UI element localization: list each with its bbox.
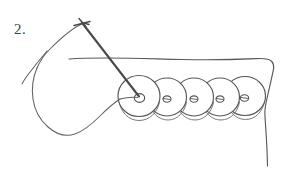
thread-loop bbox=[22, 24, 138, 135]
thread-upper-arc bbox=[37, 24, 82, 68]
needle-shaft bbox=[83, 24, 139, 97]
fabric-top-edge bbox=[69, 58, 274, 69]
bead-row bbox=[118, 76, 266, 121]
step-number-label: 2. bbox=[14, 22, 26, 37]
thread-tail bbox=[22, 51, 47, 84]
thread-loop-curve bbox=[32, 68, 120, 135]
bead-1-hole bbox=[134, 94, 144, 103]
sketch-drawing bbox=[0, 0, 286, 181]
fabric-right-edge bbox=[265, 69, 274, 166]
illustration-canvas: 2. bbox=[0, 0, 286, 181]
